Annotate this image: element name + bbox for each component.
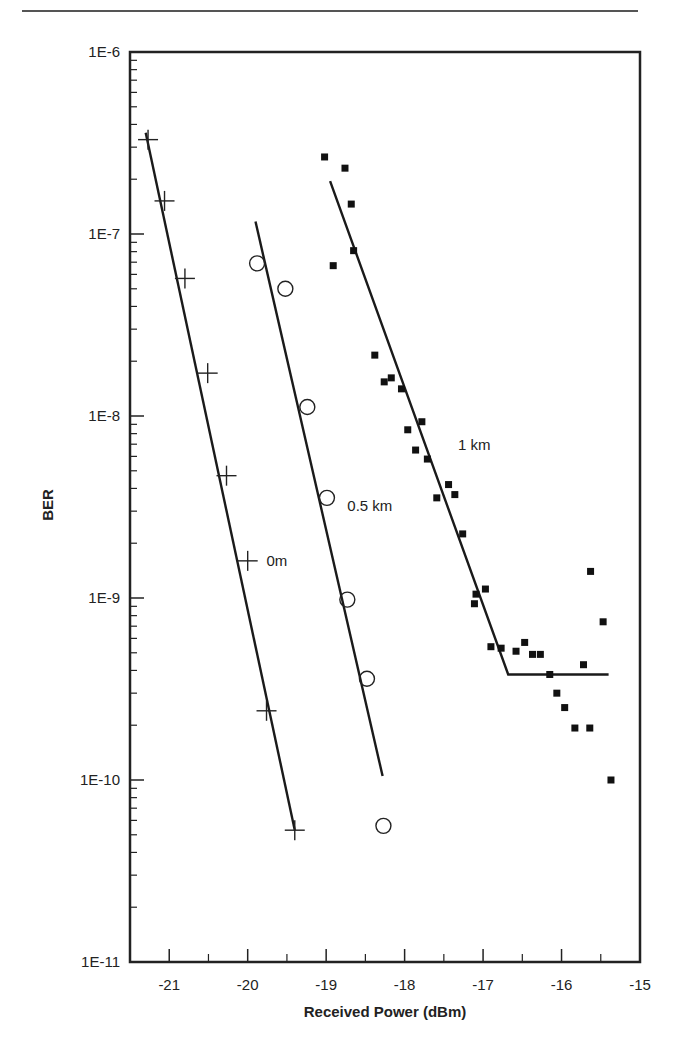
x-tick-label: -20 — [237, 976, 259, 993]
square-marker — [433, 494, 440, 501]
circle-marker — [250, 256, 265, 271]
fit-line — [330, 181, 608, 674]
circle-marker — [376, 818, 391, 833]
x-axis-title: Received Power (dBm) — [304, 1003, 467, 1020]
square-marker — [561, 704, 568, 711]
y-tick-labels: 1E-61E-71E-81E-91E-101E-11 — [80, 43, 120, 970]
square-marker — [418, 418, 425, 425]
square-marker — [482, 586, 489, 593]
series-labels: 0m0.5 km1 km — [267, 436, 491, 569]
square-marker — [388, 374, 395, 381]
square-marker — [537, 651, 544, 658]
square-marker — [404, 426, 411, 433]
square-marker — [459, 530, 466, 537]
data-markers — [138, 130, 614, 841]
series-label: 0m — [267, 552, 288, 569]
fit-lines — [146, 133, 609, 830]
square-marker — [341, 165, 348, 172]
square-marker — [546, 671, 553, 678]
circle-marker — [359, 671, 374, 686]
y-tick-label: 1E-10 — [80, 771, 120, 788]
square-marker — [471, 600, 478, 607]
y-tick-label: 1E-7 — [88, 225, 120, 242]
x-tick-label: -18 — [394, 976, 416, 993]
square-marker — [381, 378, 388, 385]
square-marker — [586, 725, 593, 732]
square-marker — [600, 618, 607, 625]
ber-chart: 1E-61E-71E-81E-91E-101E-11 -21-20-19-18-… — [0, 0, 685, 1060]
square-marker — [521, 639, 528, 646]
y-tick-label: 1E-9 — [88, 589, 120, 606]
square-marker — [529, 651, 536, 658]
plus-marker — [257, 701, 277, 721]
x-tick-label: -17 — [472, 976, 494, 993]
y-tick-label: 1E-11 — [81, 953, 120, 970]
x-tick-label: -19 — [315, 976, 337, 993]
square-marker — [451, 491, 458, 498]
x-tick-labels: -21-20-19-18-17-16-15 — [158, 976, 650, 993]
square-marker — [412, 447, 419, 454]
square-marker — [553, 690, 560, 697]
circle-marker — [319, 490, 334, 505]
series-label: 1 km — [458, 436, 491, 453]
square-marker — [498, 645, 505, 652]
x-tick-label: -16 — [551, 976, 573, 993]
y-tick-label: 1E-8 — [88, 407, 120, 424]
plus-marker — [198, 363, 218, 383]
circle-marker — [300, 400, 315, 415]
square-marker — [587, 568, 594, 575]
x-tick-label: -15 — [629, 976, 651, 993]
square-marker — [348, 201, 355, 208]
square-marker — [445, 481, 452, 488]
square-marker — [487, 643, 494, 650]
plus-marker — [155, 191, 175, 211]
circle-marker — [278, 281, 293, 296]
square-marker — [473, 591, 480, 598]
square-marker — [424, 456, 431, 463]
square-marker — [580, 661, 587, 668]
square-marker — [330, 262, 337, 269]
square-marker — [321, 153, 328, 160]
x-tick-label: -21 — [158, 976, 180, 993]
y-axis-title: BER — [39, 489, 56, 521]
square-marker — [398, 385, 405, 392]
plus-marker — [238, 551, 258, 571]
plus-marker — [285, 820, 305, 840]
y-tick-label: 1E-6 — [88, 43, 120, 60]
plus-marker — [138, 130, 158, 150]
square-marker — [513, 648, 520, 655]
fit-line — [146, 133, 295, 830]
square-marker — [571, 725, 578, 732]
square-marker — [350, 247, 357, 254]
square-marker — [371, 352, 378, 359]
series-label: 0.5 km — [347, 497, 392, 514]
square-marker — [607, 777, 614, 784]
